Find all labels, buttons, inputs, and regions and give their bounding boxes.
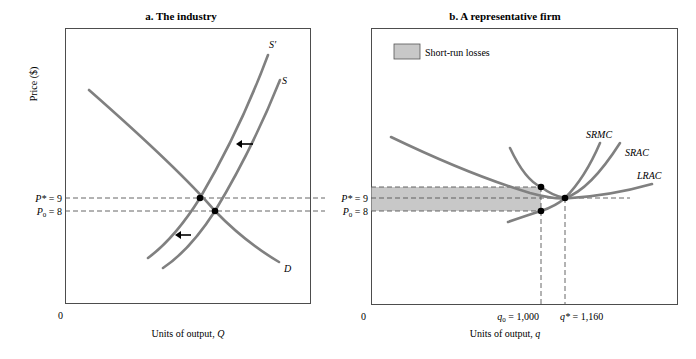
q0-label: q0 = 1,000: [497, 311, 539, 324]
demand-curve: [89, 90, 279, 262]
equilibrium-dot-new: [197, 195, 204, 202]
equilibrium-dot-initial: [212, 208, 219, 215]
short-run-losses-area: [372, 187, 542, 211]
panel-b-xlabel: Units of output, q: [470, 328, 541, 339]
lrac-label: LRAC: [636, 170, 662, 181]
panel-firm: b. A representative firm Short-run losse…: [340, 10, 677, 339]
origin-label-b: 0: [361, 311, 366, 322]
chart-canvas: a. The industry Price ($) S′ S D P* = 9 …: [0, 0, 696, 359]
pstar-label-b: P* = 9: [340, 193, 368, 204]
legend-swatch: [394, 44, 420, 59]
srac-label: SRAC: [625, 147, 649, 158]
pstar-label-a: P* = 9: [34, 193, 62, 204]
origin-label-a: 0: [58, 310, 63, 321]
qstar-label: q* = 1,160: [560, 311, 603, 322]
long-run-equilibrium-dot: [562, 195, 569, 202]
p0-label-a: P0 = 8: [36, 206, 62, 219]
legend-label: Short-run losses: [425, 47, 490, 58]
supply-prime-label: S′: [269, 39, 277, 50]
legend: Short-run losses: [394, 44, 490, 59]
panel-b-frame: [372, 29, 678, 305]
panel-a-frame: [66, 29, 311, 304]
supply-label: S: [282, 75, 287, 86]
p0-label-b: P0 = 8: [342, 206, 368, 219]
panel-b-title: b. A representative firm: [449, 10, 560, 22]
left-arrow-icon: [175, 231, 191, 239]
srac-q0-dot: [538, 184, 545, 191]
srmc-label: SRMC: [586, 129, 612, 140]
srmc-q0-dot: [538, 208, 545, 215]
supply-prime-curve: [148, 55, 268, 258]
panel-a-title: a. The industry: [145, 10, 217, 22]
demand-label: D: [283, 263, 292, 274]
panel-a-ylabel: Price ($): [28, 67, 40, 102]
panel-a-xlabel: Units of output, Q: [152, 328, 226, 339]
panel-industry: a. The industry Price ($) S′ S D P* = 9 …: [28, 10, 325, 339]
